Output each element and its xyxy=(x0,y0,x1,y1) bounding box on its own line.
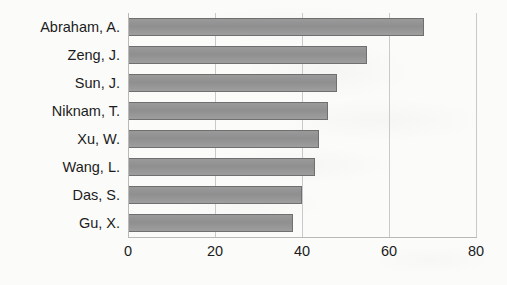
plot-area xyxy=(128,13,476,237)
bar xyxy=(128,18,424,36)
bar xyxy=(128,102,328,120)
category-label: Das, S. xyxy=(0,185,124,213)
bar xyxy=(128,130,319,148)
x-axis-line xyxy=(128,237,477,238)
x-tick-label: 80 xyxy=(446,243,506,259)
bar xyxy=(128,46,367,64)
x-tick-label: 20 xyxy=(185,243,245,259)
gridline-80 xyxy=(476,13,477,237)
category-label: Wang, L. xyxy=(0,157,124,185)
x-tick-label: 40 xyxy=(272,243,332,259)
x-axis-tick-labels: 020406080 xyxy=(0,243,507,269)
category-label: Gu, X. xyxy=(0,213,124,241)
gridline-60 xyxy=(389,13,390,237)
category-label: Zeng, J. xyxy=(0,45,124,73)
bar xyxy=(128,158,315,176)
bar xyxy=(128,214,293,232)
bar xyxy=(128,186,302,204)
bar-chart: Abraham, A.Zeng, J.Sun, J.Niknam, T.Xu, … xyxy=(0,0,507,285)
category-axis-labels: Abraham, A.Zeng, J.Sun, J.Niknam, T.Xu, … xyxy=(0,13,124,237)
category-label: Abraham, A. xyxy=(0,17,124,45)
category-label: Xu, W. xyxy=(0,129,124,157)
bar xyxy=(128,74,337,92)
category-label: Sun, J. xyxy=(0,73,124,101)
category-label: Niknam, T. xyxy=(0,101,124,129)
y-axis-line xyxy=(128,13,129,238)
x-tick-label: 60 xyxy=(359,243,419,259)
x-tick-label: 0 xyxy=(98,243,158,259)
